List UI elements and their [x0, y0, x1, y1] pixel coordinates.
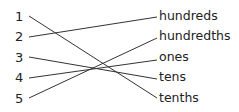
- line-2-hundreds: [29, 17, 157, 37]
- word-tenths: tenths: [159, 92, 199, 105]
- number-3: 3: [15, 51, 23, 64]
- word-hundredths: hundredths: [159, 30, 231, 43]
- number-5: 5: [15, 92, 23, 105]
- number-1: 1: [15, 10, 23, 23]
- word-hundreds: hundreds: [159, 10, 218, 23]
- number-4: 4: [15, 71, 23, 84]
- word-tens: tens: [159, 71, 186, 84]
- line-1-tenths: [29, 16, 157, 98]
- line-5-hundredths: [29, 38, 157, 98]
- word-ones: ones: [159, 51, 189, 64]
- number-2: 2: [15, 30, 23, 43]
